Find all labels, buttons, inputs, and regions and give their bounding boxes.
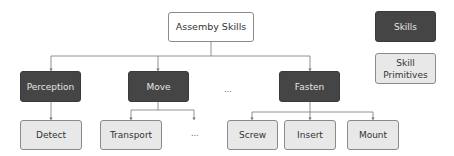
root-label: Assemby Skills <box>176 21 247 33</box>
primitive-node-insert: Insert <box>284 120 336 150</box>
primitive-label: Mount <box>359 129 387 141</box>
primitive-label: Detect <box>36 129 66 141</box>
skill-node-fasten: Fasten <box>279 71 340 102</box>
primitive-label: Screw <box>239 129 266 141</box>
primitive-label: Transport <box>110 129 152 141</box>
legend-primitives: Skill Primitives <box>375 53 436 84</box>
primitive-node-screw: Screw <box>227 120 278 150</box>
skill-label: Fasten <box>295 81 324 93</box>
skill-node-perception: Perception <box>20 71 81 102</box>
legend-skills: Skills <box>375 11 436 42</box>
skill-label: Perception <box>27 81 75 93</box>
root-node: Assemby Skills <box>168 12 254 42</box>
skill-label: Move <box>146 81 170 93</box>
legend-skills-label: Skills <box>394 21 417 33</box>
skill-node-move: Move <box>128 71 189 102</box>
move-primitives-ellipsis: ... <box>191 129 199 138</box>
legend-primitives-label: Skill Primitives <box>383 57 427 81</box>
skills-ellipsis: ... <box>224 85 232 94</box>
primitive-node-detect: Detect <box>20 120 82 150</box>
primitive-node-mount: Mount <box>347 120 399 150</box>
primitive-node-transport: Transport <box>100 120 162 150</box>
primitive-label: Insert <box>297 129 323 141</box>
